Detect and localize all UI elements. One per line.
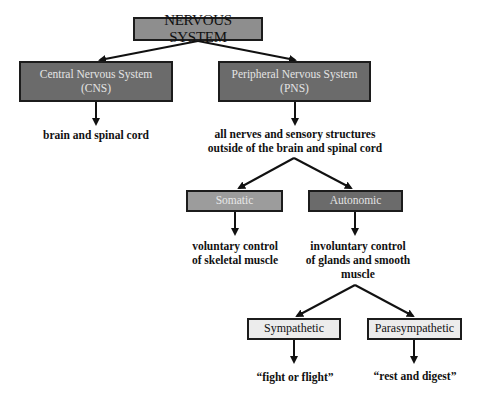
node-nervous-system-label: NERVOUS SYSTEM: [135, 12, 261, 47]
parasympathetic-description: “rest and digest”: [360, 370, 470, 384]
node-cns-abbrev: (CNS): [81, 82, 111, 95]
node-sympathetic-label: Sympathetic: [264, 322, 324, 336]
pns-description-line1: all nerves and sensory structures: [195, 128, 395, 142]
cns-description: brain and spinal cord: [20, 129, 172, 143]
node-cns-label: Central Nervous System: [40, 68, 152, 81]
node-parasympathetic: Parasympathetic: [367, 318, 462, 340]
pns-description-line2: outside of the brain and spinal cord: [195, 142, 395, 156]
node-cns: Central Nervous System (CNS): [19, 61, 173, 102]
autonomic-description-line1: involuntary control: [288, 240, 428, 254]
node-somatic-label: Somatic: [216, 194, 254, 207]
node-pns-label: Peripheral Nervous System: [232, 68, 358, 81]
autonomic-description: involuntary control of glands and smooth…: [288, 240, 428, 281]
node-parasympathetic-label: Parasympathetic: [375, 322, 454, 336]
node-sympathetic: Sympathetic: [247, 318, 341, 340]
pns-description: all nerves and sensory structures outsid…: [195, 128, 395, 156]
node-pns-abbrev: (PNS): [280, 82, 309, 95]
node-pns: Peripheral Nervous System (PNS): [218, 61, 371, 102]
sympathetic-description: “fight or flight”: [240, 371, 350, 385]
autonomic-description-line2: of glands and smooth muscle: [288, 254, 428, 282]
somatic-description-line2: of skeletal muscle: [180, 254, 290, 268]
node-autonomic-label: Autonomic: [330, 194, 382, 207]
somatic-description: voluntary control of skeletal muscle: [180, 240, 290, 268]
node-autonomic: Autonomic: [308, 190, 403, 212]
node-nervous-system: NERVOUS SYSTEM: [133, 17, 263, 41]
somatic-description-line1: voluntary control: [180, 240, 290, 254]
node-somatic: Somatic: [186, 190, 283, 212]
